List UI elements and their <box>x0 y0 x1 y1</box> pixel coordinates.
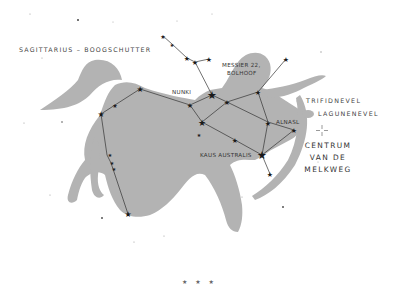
svg-text:★: ★ <box>170 42 175 48</box>
svg-text:★: ★ <box>192 59 198 67</box>
svg-text:★: ★ <box>112 102 117 109</box>
svg-text:★: ★ <box>124 210 131 219</box>
svg-text:★: ★ <box>136 85 143 94</box>
lagoon-marker <box>302 110 314 118</box>
kaus-australis-star: ★ <box>257 149 267 162</box>
svg-text:★: ★ <box>265 120 271 128</box>
galactic-center-icon <box>316 125 328 136</box>
svg-text:★: ★ <box>184 55 190 63</box>
legend-trifid-nebula: TRIFIDNEVEL <box>306 97 361 104</box>
svg-text:★: ★ <box>283 56 289 64</box>
galactic-center-line2: VAN DE <box>298 152 358 164</box>
svg-text:★: ★ <box>206 56 212 64</box>
svg-text:★: ★ <box>198 118 206 128</box>
galactic-center-line1: CENTRUM <box>298 140 358 152</box>
svg-text:★: ★ <box>97 110 104 119</box>
label-nunki: NUNKI <box>172 89 191 95</box>
section-divider-stars: ★ ★ ★ <box>0 278 399 285</box>
svg-text:★: ★ <box>267 171 273 179</box>
label-messier-22-line1: MESSIER 22, <box>222 62 261 68</box>
svg-text:★: ★ <box>232 137 238 145</box>
nunki-star: ★ <box>207 89 217 102</box>
svg-text:★: ★ <box>187 102 193 110</box>
label-alnasl: ALNASL <box>276 119 299 125</box>
svg-text:★: ★ <box>112 166 117 172</box>
svg-text:★: ★ <box>160 33 165 40</box>
svg-text:★: ★ <box>108 152 113 158</box>
svg-text:★: ★ <box>224 99 230 107</box>
galactic-center-line3: MELKWEG <box>298 164 358 176</box>
label-messier-22-line2: BOLHOOF <box>227 70 257 76</box>
legend-lagoon-nebula: LAGUNENEVEL <box>318 110 379 117</box>
svg-text:★: ★ <box>197 132 202 138</box>
centaur-silhouette <box>40 53 326 232</box>
constellation-title: SAGITTARIUS – BOOGSCHUTTER <box>19 46 151 53</box>
svg-text:★: ★ <box>255 89 261 97</box>
trifid-marker <box>297 100 300 103</box>
alnasl-star: ★ <box>291 127 297 135</box>
label-galactic-center: CENTRUM VAN DE MELKWEG <box>298 140 358 176</box>
label-kaus-australis: KAUS AUSTRALIS <box>200 152 252 158</box>
